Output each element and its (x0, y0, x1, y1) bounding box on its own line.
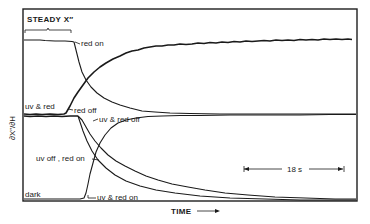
trace-uv-off-red-on (78, 116, 356, 200)
uv-red-on-leader (88, 195, 96, 198)
y-axis-label: ∂X″/∂H (8, 116, 17, 140)
trace-uv-red-off (78, 116, 356, 199)
chart-canvas: STEADY X″ red on uv & red red off uv & r… (0, 0, 370, 224)
scale-bar-label: 18 s (287, 165, 302, 174)
uv-red-label: uv & red (25, 102, 55, 111)
trace-red-on (24, 40, 356, 114)
uv-red-off-label: uv & red off (99, 115, 141, 124)
uv-off-red-on-label: uv off , red on (36, 154, 85, 163)
trace-red-off (24, 39, 352, 115)
steady-brace (25, 28, 71, 33)
trace-uv-red-baseline (24, 116, 78, 117)
time-arrow-icon (197, 209, 220, 213)
red-on-label: red on (81, 39, 104, 48)
steady-label: STEADY X″ (27, 15, 73, 24)
red-on-leader (75, 42, 80, 44)
red-off-label: red off (74, 106, 97, 115)
uv-red-off-leader (93, 119, 98, 121)
uv-red-on-label: uv & red on (97, 193, 138, 202)
dark-label: dark (25, 190, 42, 199)
plot-frame (23, 9, 357, 201)
x-axis-label: TIME (171, 207, 192, 216)
red-off-leader (68, 109, 73, 110)
